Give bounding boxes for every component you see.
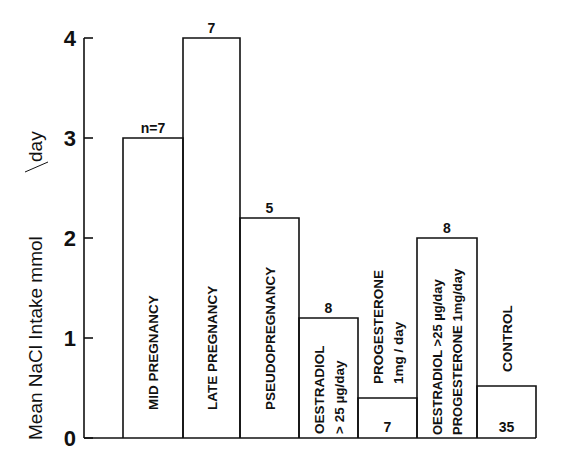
- bar-n-label: 8: [443, 220, 451, 236]
- bar: 5PSEUDOPREGNANCY: [240, 200, 299, 438]
- bar-category-label: PROGESTERONE 1mg/day: [450, 268, 465, 435]
- y-axis-title: Mean NaCl Intake mmol: [25, 236, 46, 440]
- bar-category-label: PSEUDOPREGNANCY: [263, 267, 278, 410]
- y-axis-unit: day: [25, 131, 46, 162]
- bars-group: n=7MID PREGNANCY7LATE PREGNANCY5PSEUDOPR…: [123, 20, 536, 438]
- bar-category-label: 1mg / day: [391, 321, 406, 384]
- y-tick-label: 1: [64, 326, 76, 351]
- bar-n-label: n=7: [141, 120, 166, 136]
- y-axis-label: Mean NaCl Intake mmolday: [25, 131, 48, 440]
- bar-chart: 01234 n=7MID PREGNANCY7LATE PREGNANCY5PS…: [0, 0, 564, 460]
- bar: 8OESTRADIOL> 25 µg/day: [299, 300, 358, 438]
- bar: 35CONTROL: [477, 305, 536, 438]
- bar-n-label: 8: [325, 300, 333, 316]
- bar-category-label: > 25 µg/day: [332, 360, 347, 434]
- bar: 7LATE PREGNANCY: [183, 20, 240, 438]
- bar-category-label: OESTRADIOL: [312, 345, 327, 434]
- bar-n-label: 7: [208, 20, 216, 36]
- unit-slash: [25, 162, 48, 172]
- bar-category-label: CONTROL: [500, 305, 515, 372]
- y-tick-label: 2: [64, 226, 76, 251]
- bar: 8OESTRADIOL >25 µg/dayPROGESTERONE 1mg/d…: [417, 220, 477, 438]
- y-tick-label: 0: [64, 426, 76, 451]
- bar: 7PROGESTERONE1mg / day: [358, 270, 417, 438]
- y-tick-label: 3: [64, 126, 76, 151]
- bar-outline: [417, 238, 477, 438]
- bar-category-label: LATE PREGNANCY: [205, 286, 220, 410]
- bar-category-label: MID PREGNANCY: [146, 295, 161, 410]
- bar-category-label: PROGESTERONE: [371, 270, 386, 384]
- bar: n=7MID PREGNANCY: [123, 120, 183, 438]
- bar-outline: [299, 318, 358, 438]
- bar-category-label: OESTRADIOL >25 µg/day: [430, 279, 445, 435]
- bar-n-label: 7: [384, 419, 392, 435]
- bar-n-label: 35: [499, 419, 515, 435]
- bar-n-label: 5: [266, 200, 274, 216]
- y-tick-label: 4: [64, 26, 77, 51]
